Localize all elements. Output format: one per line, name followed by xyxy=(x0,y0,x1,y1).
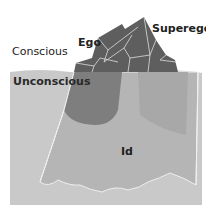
label-ego: Ego xyxy=(78,36,101,49)
label-superego: Superego xyxy=(152,22,206,35)
iceberg-diagram: Conscious Unconscious Ego Superego Id xyxy=(0,0,206,213)
label-conscious: Conscious xyxy=(12,45,68,58)
label-id: Id xyxy=(121,145,133,158)
label-unconscious: Unconscious xyxy=(13,75,90,88)
